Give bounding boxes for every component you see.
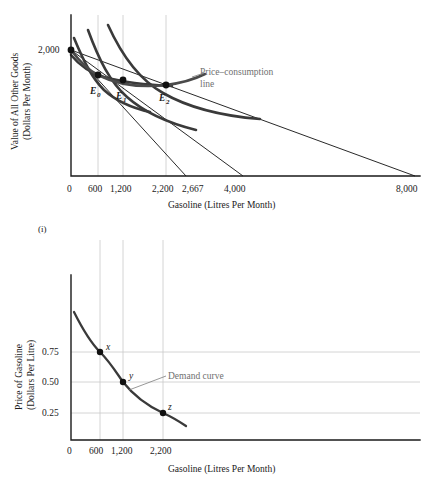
xtick-1200-bottom: 1,200 bbox=[111, 446, 133, 456]
point-y-dot bbox=[120, 379, 126, 385]
xtick-8000: 8,000 bbox=[396, 184, 418, 194]
price-consumption-chart: E 0 E 1 E 2 Price–consumption line 2,000… bbox=[0, 0, 429, 240]
point-x-dot bbox=[97, 349, 103, 355]
xtick-2200: 2,200 bbox=[152, 184, 174, 194]
top-chart-xlabel: Gasoline (Litres Per Month) bbox=[168, 200, 275, 211]
panel-label-i: (i) bbox=[38, 224, 47, 234]
demand-curve-leader bbox=[129, 376, 166, 390]
point-x-label: x bbox=[105, 342, 111, 352]
ytick-050: 0.50 bbox=[42, 377, 59, 387]
point-e1-label: E bbox=[115, 91, 122, 101]
price-consumption-line bbox=[71, 50, 205, 86]
xtick-2200-bottom: 2,200 bbox=[150, 446, 172, 456]
point-e0-label: E bbox=[89, 86, 96, 96]
top-chart-ylabel-line2: (Dollars Per Month) bbox=[22, 63, 33, 140]
bottom-chart-ylabel-line1: Price of Gasoline bbox=[14, 344, 24, 410]
ytick-075: 0.75 bbox=[42, 347, 59, 357]
xtick-1200: 1,200 bbox=[110, 184, 132, 194]
top-chart-ylabel-line1: Value of All Other Goods bbox=[10, 53, 20, 150]
xtick-4000: 4,000 bbox=[224, 184, 246, 194]
xtick-600-bottom: 600 bbox=[89, 446, 104, 456]
point-z-dot bbox=[160, 410, 166, 416]
xtick-2667: 2,667 bbox=[182, 184, 204, 194]
ytick-2000: 2,000 bbox=[38, 45, 60, 55]
xtick-0-bottom: 0 bbox=[67, 446, 72, 456]
point-e0-subscript: 0 bbox=[97, 91, 101, 99]
figure-root: E 0 E 1 E 2 Price–consumption line 2,000… bbox=[0, 0, 429, 480]
point-e1-dot bbox=[120, 77, 127, 84]
point-e1-subscript: 1 bbox=[123, 96, 127, 104]
point-e2-label: E bbox=[158, 93, 165, 103]
point-z-label: z bbox=[167, 402, 172, 412]
xtick-600: 600 bbox=[88, 184, 103, 194]
bottom-chart-xlabel: Gasoline (Litres Per Month) bbox=[168, 464, 275, 475]
price-consumption-annotation-line2: line bbox=[200, 79, 214, 89]
indifference-curve-1 bbox=[88, 30, 196, 130]
demand-curve-annotation: Demand curve bbox=[168, 371, 224, 381]
point-e2-subscript: 2 bbox=[165, 98, 170, 106]
point-e0-dot bbox=[95, 72, 102, 79]
ytick-025: 0.25 bbox=[42, 408, 59, 418]
endowment-dot bbox=[68, 47, 75, 54]
demand-chart: x y z Demand curve 0.75 0.50 0.25 0 600 … bbox=[0, 240, 429, 480]
xtick-0: 0 bbox=[67, 184, 72, 194]
point-y-label: y bbox=[128, 371, 134, 381]
price-consumption-annotation-line1: Price–consumption bbox=[200, 67, 274, 77]
point-e2-dot bbox=[163, 82, 170, 89]
bottom-chart-ylabel-line2: (Dollars Per Litre) bbox=[26, 340, 37, 410]
